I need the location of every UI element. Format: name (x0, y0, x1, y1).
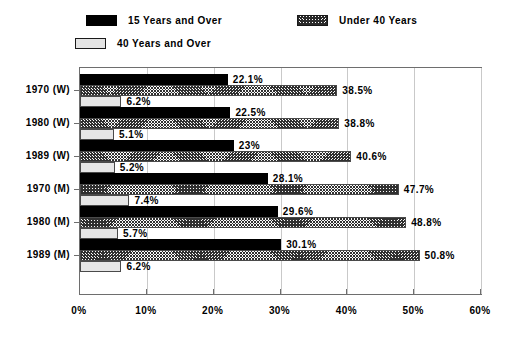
x-axis-label: 60% (469, 306, 490, 316)
x-axis-tick (413, 289, 414, 295)
gridline (481, 68, 482, 294)
y-axis-label: 1980 (W) (26, 118, 70, 128)
x-axis: 0%10%20%30%40%50%60% (79, 295, 482, 325)
legend-item-15-years-and-over: 15 Years and Over (86, 15, 222, 26)
legend-label: 15 Years and Over (128, 16, 222, 26)
x-axis-tick (480, 289, 481, 295)
chart-plot-area: 22.1%38.5%6.2%22.5%38.8%5.1%23%40.6%5.2%… (79, 67, 482, 295)
legend-swatch-hatch-icon (297, 15, 328, 26)
x-axis-label: 20% (202, 306, 223, 316)
y-axis-label: 1970 (W) (26, 85, 70, 95)
y-axis-tick (74, 90, 80, 91)
legend-label: 40 Years and Over (117, 39, 211, 49)
x-axis-label: 50% (403, 306, 424, 316)
x-axis-label: 30% (269, 306, 290, 316)
legend-item-40-years-and-over: 40 Years and Over (75, 38, 211, 49)
x-axis-tick (213, 289, 214, 295)
chart-legend: 15 Years and Over Under 40 Years 40 Year… (0, 0, 520, 60)
legend-label: Under 40 Years (339, 16, 417, 26)
y-axis-tick (74, 189, 80, 190)
y-axis-tick (74, 255, 80, 256)
x-axis-tick (346, 289, 347, 295)
legend-swatch-black-icon (86, 15, 117, 26)
y-axis-labels: 1970 (W)1980 (W)1989 (W)1970 (M)1980 (M)… (80, 68, 481, 294)
y-axis-tick (74, 123, 80, 124)
y-axis-tick (74, 222, 80, 223)
legend-swatch-stipple-icon (75, 38, 106, 49)
y-axis-tick (74, 156, 80, 157)
y-axis-label: 1970 (M) (27, 184, 70, 194)
x-axis-tick (79, 289, 80, 295)
x-axis-label: 40% (336, 306, 357, 316)
y-axis-label: 1989 (M) (27, 250, 70, 260)
legend-item-under-40-years: Under 40 Years (297, 15, 417, 26)
x-axis-tick (146, 289, 147, 295)
x-axis-label: 10% (135, 306, 156, 316)
y-axis-label: 1989 (W) (26, 151, 70, 161)
x-axis-tick (280, 289, 281, 295)
x-axis-label: 0% (71, 306, 86, 316)
y-axis-label: 1980 (M) (27, 217, 70, 227)
